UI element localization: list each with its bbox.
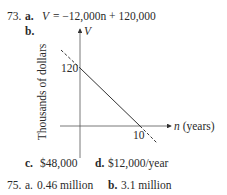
x-axis-var: n	[174, 120, 180, 132]
value-line	[80, 68, 140, 126]
y-axis-title: Thousands of dollars	[36, 44, 48, 140]
x-intercept-label: 10	[133, 130, 145, 142]
p75-part-b-label: b.	[108, 180, 117, 192]
x-axis-label: n (years)	[174, 121, 215, 133]
problem-number-75: 75.	[7, 180, 21, 192]
p75-part-b-answer: 3.1 million	[121, 180, 171, 192]
p75-part-a-label: a.	[25, 180, 33, 192]
part-d-answer: $12,000/year	[108, 158, 168, 170]
part-d-label: d.	[95, 158, 104, 170]
x-axis-unit: (years)	[183, 120, 215, 132]
part-c-answer: $48,000	[40, 158, 77, 170]
part-c-label: c.	[25, 158, 33, 170]
y-axis-label: V	[84, 26, 91, 38]
y-intercept-label: 120	[61, 63, 78, 75]
p75-part-a-answer: 0.46 million	[37, 180, 93, 192]
